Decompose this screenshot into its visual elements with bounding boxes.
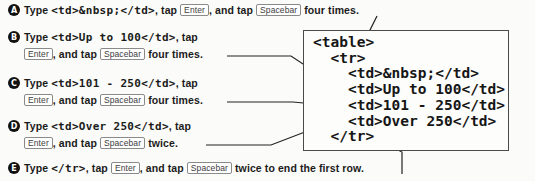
instruction-text: four times. <box>145 94 203 106</box>
instruction-text: , tap <box>176 77 198 89</box>
key-enter-cap: Enter <box>111 162 140 174</box>
step-line: Enter, and tap Spacebar four times. <box>24 92 203 108</box>
code-line: <table> <box>313 35 505 51</box>
instruction-text: , and tap <box>53 48 100 60</box>
step-badge-d: D <box>8 120 20 132</box>
instruction-text: , and tap <box>209 4 256 16</box>
instruction-text: , tap <box>169 120 191 132</box>
instruction-text: , tap <box>86 162 111 174</box>
instruction-text: , and tap <box>140 162 187 174</box>
key-enter-cap: Enter <box>180 4 209 16</box>
instruction-text: Type <box>24 120 51 132</box>
instruction-text: twice. <box>145 137 178 149</box>
code-line: <td>101 - 250</td> <box>313 98 505 114</box>
key-spacebar-cap: Spacebar <box>100 94 145 106</box>
code-line: <td>Over 250</td> <box>313 114 505 130</box>
step-line: Type </tr>, tap Enter, and tap Spacebar … <box>24 160 364 177</box>
key-spacebar-cap: Spacebar <box>256 4 301 16</box>
key-spacebar-cap: Spacebar <box>187 162 232 174</box>
step-text: Type </tr>, tap Enter, and tap Spacebar … <box>24 160 364 177</box>
instruction-text: Type <box>24 162 51 174</box>
code-line: <tr> <box>313 51 505 67</box>
instruction-text: Type <box>24 77 51 89</box>
step-line: Enter, and tap Spacebar four times. <box>24 46 203 62</box>
book-page: AType <td>&nbsp;</td>, tap Enter, and ta… <box>0 0 535 181</box>
step-badge-c: C <box>8 77 20 89</box>
instruction-step-b: BType <td>Up to 100</td>, tapEnter, and … <box>8 29 203 62</box>
instruction-text: , tap <box>176 31 198 43</box>
step-line: Type <td>Up to 100</td>, tap <box>24 29 203 46</box>
instruction-text: twice to end the first row. <box>232 162 364 174</box>
instruction-step-c: CType <td>101 - 250</td>, tapEnter, and … <box>8 75 203 108</box>
inline-code: <td>Over 250</td> <box>51 120 169 133</box>
instruction-text: four times. <box>301 4 359 16</box>
instruction-step-e: EType </tr>, tap Enter, and tap Spacebar… <box>8 160 364 177</box>
instruction-text: Type <box>24 31 51 43</box>
code-line: </tr> <box>313 129 505 145</box>
instruction-text: , tap <box>155 4 180 16</box>
key-enter-cap: Enter <box>24 94 53 106</box>
instruction-text: , and tap <box>53 137 100 149</box>
step-text: Type <td>Over 250</td>, tapEnter, and ta… <box>24 118 191 151</box>
instruction-text: four times. <box>145 48 203 60</box>
key-enter-cap: Enter <box>24 48 53 60</box>
inline-code: <td>101 - 250</td> <box>51 77 176 90</box>
step-text: Type <td>Up to 100</td>, tapEnter, and t… <box>24 29 203 62</box>
code-listing: <table> <tr> <td>&nbsp;</td> <td>Up to 1… <box>313 35 505 145</box>
inline-code: <td>&nbsp;</td> <box>51 4 155 17</box>
code-line: <td>&nbsp;</td> <box>313 66 505 82</box>
step-badge-e: E <box>8 162 20 174</box>
step-badge-b: B <box>8 31 20 43</box>
instruction-text: , and tap <box>53 94 100 106</box>
code-box: <table> <tr> <td>&nbsp;</td> <td>Up to 1… <box>303 30 509 151</box>
code-line: <td>Up to 100</td> <box>313 82 505 98</box>
step-text: Type <td>101 - 250</td>, tapEnter, and t… <box>24 75 203 108</box>
step-text: Type <td>&nbsp;</td>, tap Enter, and tap… <box>24 2 359 19</box>
key-enter-cap: Enter <box>24 137 53 149</box>
inline-code: <td>Up to 100</td> <box>51 31 176 44</box>
step-line: Enter, and tap Spacebar twice. <box>24 135 191 151</box>
instruction-step-a: AType <td>&nbsp;</td>, tap Enter, and ta… <box>8 2 359 19</box>
step-line: Type <td>101 - 250</td>, tap <box>24 75 203 92</box>
step-line: Type <td>Over 250</td>, tap <box>24 118 191 135</box>
instruction-text: Type <box>24 4 51 16</box>
step-badge-a: A <box>8 4 20 16</box>
instruction-step-d: DType <td>Over 250</td>, tapEnter, and t… <box>8 118 191 151</box>
inline-code: </tr> <box>51 162 86 175</box>
key-spacebar-cap: Spacebar <box>100 137 145 149</box>
key-spacebar-cap: Spacebar <box>100 48 145 60</box>
step-line: Type <td>&nbsp;</td>, tap Enter, and tap… <box>24 2 359 19</box>
